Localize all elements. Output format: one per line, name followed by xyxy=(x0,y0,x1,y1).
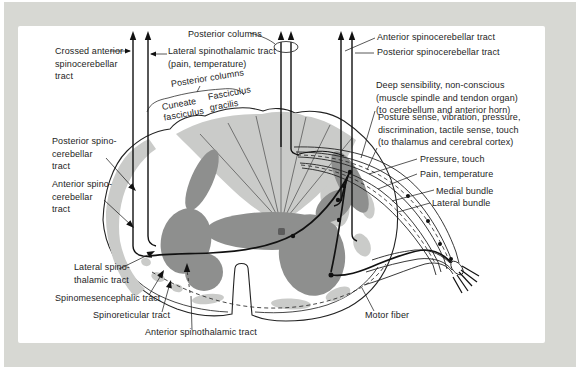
figure-spinal-cord-cross-section: Posterior columns Crossed anterior spino… xyxy=(0,0,579,367)
label-lateral-spinothalamic-tract-top: Lateral spinothalamic tract (pain, tempe… xyxy=(168,45,276,70)
label-lateral-bundle: Lateral bundle xyxy=(432,197,490,210)
label-anterior-spinocerebellar-tract-left: Anterior spino- cerebellar tract xyxy=(52,178,112,216)
label-posterior-columns-top: Posterior columns xyxy=(188,28,262,41)
label-spinoreticular-tract: Spinoreticular tract xyxy=(93,309,170,322)
posterior-columns-loop-icon xyxy=(274,42,298,53)
label-posture-sense: Posture sense, vibration, pressure, disc… xyxy=(378,111,521,149)
label-pain-temperature: Pain, temperature xyxy=(420,168,493,181)
label-anterior-spinocerebellar-tract: Anterior spinocerebellar tract xyxy=(377,31,495,44)
label-crossed-anterior-spinocerebellar-tract: Crossed anterior spinocerebellar tract xyxy=(55,45,123,83)
label-lateral-spinothalamic-tract-left: Lateral spino- thalamic tract xyxy=(74,261,130,286)
label-medial-bundle: Medial bundle xyxy=(436,185,493,198)
label-anterior-spinothalamic-tract: Anterior spinothalamic tract xyxy=(145,326,257,339)
label-posterior-spinocerebellar-tract: Posterior spinocerebellar tract xyxy=(377,46,500,59)
label-motor-fiber: Motor fiber xyxy=(365,309,409,322)
label-posterior-spinocerebellar-tract-left: Posterior spino- cerebellar tract xyxy=(52,135,117,173)
label-spinomesencephalic-tract: Spinomesencephalic tract xyxy=(55,292,160,305)
central-canal xyxy=(278,228,285,235)
label-pressure-touch: Pressure, touch xyxy=(420,153,485,166)
nerve-ending-fibers xyxy=(448,259,479,293)
